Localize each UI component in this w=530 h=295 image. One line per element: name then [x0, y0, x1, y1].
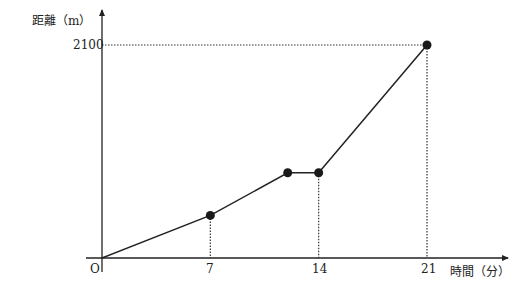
x-tick-7: 7 — [206, 262, 214, 276]
data-point-marker — [283, 168, 292, 177]
y-tick-2100: 2100 — [73, 38, 104, 52]
data-series — [102, 41, 432, 259]
x-axis-label: 時間（分） — [450, 262, 510, 279]
data-point-marker — [423, 41, 432, 50]
x-tick-21: 21 — [421, 262, 436, 276]
y-axis-label: 距離（m） — [32, 11, 91, 28]
x-tick-14: 14 — [312, 262, 327, 276]
distance-line — [102, 45, 427, 258]
origin-label: O — [90, 262, 100, 276]
guide-lines — [102, 45, 427, 258]
data-point-marker — [206, 211, 215, 220]
axes — [86, 10, 508, 272]
data-point-marker — [314, 168, 323, 177]
